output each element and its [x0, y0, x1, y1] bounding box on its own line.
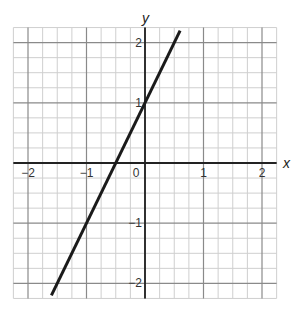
x-tick-label: −2	[21, 166, 35, 180]
axes	[13, 28, 276, 299]
y-tick-label: −2	[128, 276, 142, 290]
x-tick-label: 1	[200, 166, 207, 180]
x-tick-label: −1	[80, 166, 94, 180]
y-axis-label: y	[141, 10, 150, 26]
x-tick-label: 2	[259, 166, 266, 180]
x-tick-label: 0	[133, 166, 140, 180]
x-axis-label: x	[282, 155, 291, 171]
coordinate-plane: −2−1012−2−112 x y	[0, 0, 297, 313]
y-tick-label: −1	[128, 216, 142, 230]
y-tick-label: 2	[135, 36, 142, 50]
